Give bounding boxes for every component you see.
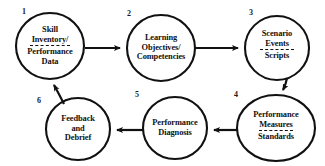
node-number-6: 6 bbox=[37, 96, 41, 105]
diagram-canvas: 1 Skill Inventory/ Performance Data 2 Le… bbox=[0, 0, 325, 166]
node-number-2: 2 bbox=[127, 9, 131, 18]
node-circle-5 bbox=[143, 97, 207, 159]
node-circle-2 bbox=[127, 15, 195, 81]
node-number-4: 4 bbox=[234, 90, 238, 99]
node-number-1: 1 bbox=[22, 7, 26, 16]
diagram-graphics bbox=[0, 0, 325, 166]
node-circle-4 bbox=[237, 95, 315, 161]
edge-6-to-1 bbox=[54, 85, 64, 104]
node-circle-3 bbox=[245, 16, 309, 80]
node-circle-6 bbox=[46, 98, 110, 160]
node-number-3: 3 bbox=[249, 8, 253, 17]
node-number-5: 5 bbox=[135, 90, 139, 99]
node-circle-1 bbox=[16, 13, 84, 79]
